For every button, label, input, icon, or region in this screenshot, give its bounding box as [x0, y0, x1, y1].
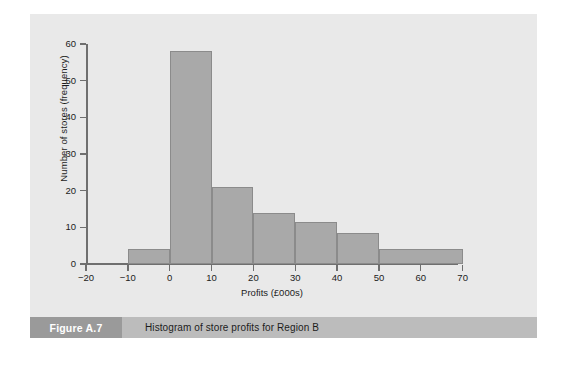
histogram-bar: [295, 222, 337, 264]
x-tick-mark: [336, 265, 337, 271]
figure-number-label: Figure A.7: [30, 317, 122, 338]
histogram-bar: [212, 187, 254, 264]
x-tick-label: 50: [359, 272, 399, 283]
x-tick-mark: [420, 265, 421, 271]
x-tick-label: 70: [443, 272, 483, 283]
figure-caption-text: Histogram of store profits for Region B: [145, 322, 319, 333]
histogram-bar: [128, 249, 170, 264]
x-tick-mark: [295, 265, 296, 271]
x-tick-mark: [462, 265, 463, 271]
figure-caption-bar: Figure A.7 Histogram of store profits fo…: [30, 317, 537, 338]
x-tick-label: 60: [401, 272, 441, 283]
x-tick-mark: [169, 265, 170, 271]
histogram-bar: [170, 51, 212, 264]
histogram-bars: [30, 14, 537, 264]
x-tick-label: 40: [317, 272, 357, 283]
chart-plot-area: Number of stores (frequency) Profits (£0…: [30, 14, 537, 284]
histogram-bar: [379, 249, 463, 264]
x-tick-mark: [378, 265, 379, 271]
x-tick-mark: [127, 265, 128, 271]
x-tick-label: 10: [192, 272, 232, 283]
x-tick-label: −20: [66, 272, 106, 283]
histogram-bar: [337, 233, 379, 264]
x-tick-mark: [253, 265, 254, 271]
x-tick-label: −10: [108, 272, 148, 283]
figure-panel: Number of stores (frequency) Profits (£0…: [30, 14, 537, 317]
x-tick-label: 0: [150, 272, 190, 283]
x-axis-title: Profits (£000s): [86, 287, 458, 298]
x-tick-label: 30: [275, 272, 315, 283]
x-tick-mark: [211, 265, 212, 271]
histogram-bar: [253, 213, 295, 264]
x-tick-mark: [85, 265, 86, 271]
x-tick-label: 20: [233, 272, 273, 283]
